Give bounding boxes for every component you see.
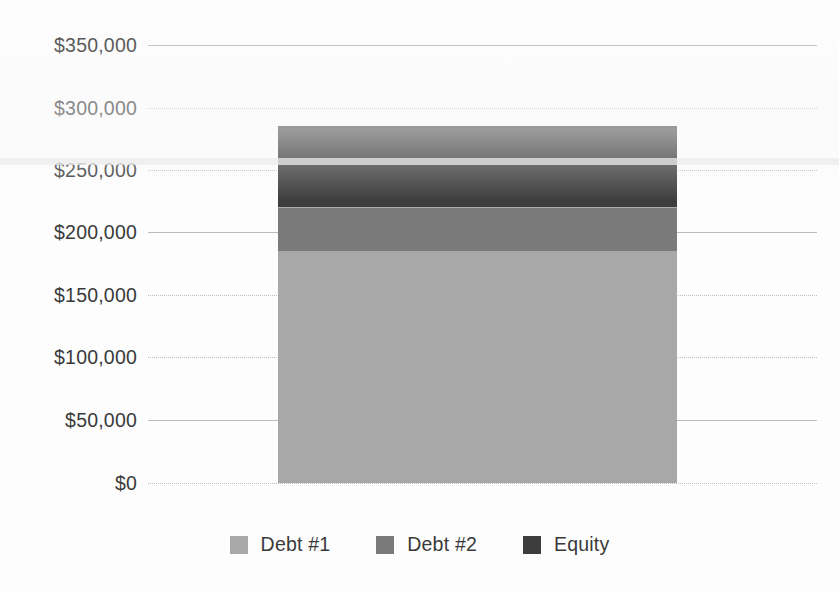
ytick-label-300000: $300,000 <box>54 97 137 120</box>
gridline-300000 <box>148 108 817 109</box>
bar-segment-debt-2[interactable] <box>278 208 677 251</box>
gridline-350000 <box>148 45 817 46</box>
legend-label-debt-2: Debt #2 <box>407 533 477 556</box>
ytick-label-0: $0 <box>115 472 137 495</box>
ytick-label-100000: $100,000 <box>54 346 137 369</box>
ytick-label-50000: $50,000 <box>65 409 137 432</box>
ytick-label-350000: $350,000 <box>54 34 137 57</box>
legend-swatch-icon-equity <box>523 536 541 554</box>
gridline-0 <box>148 483 817 484</box>
chart-container: $350,000 $300,000 $250,000 $200,000 $150… <box>0 0 839 592</box>
ytick-label-200000: $200,000 <box>54 221 137 244</box>
legend-item-debt-1[interactable]: Debt #1 <box>230 533 331 556</box>
ytick-label-150000: $150,000 <box>54 284 137 307</box>
plot-area: $350,000 $300,000 $250,000 $200,000 $150… <box>0 0 839 592</box>
legend-item-equity[interactable]: Equity <box>523 533 609 556</box>
bar-segment-equity[interactable] <box>278 126 677 208</box>
legend-swatch-icon-debt-1 <box>230 536 248 554</box>
legend-label-equity: Equity <box>554 533 609 556</box>
ytick-label-250000: $250,000 <box>54 159 137 182</box>
legend-swatch-icon-debt-2 <box>376 536 394 554</box>
legend-item-debt-2[interactable]: Debt #2 <box>376 533 477 556</box>
legend-label-debt-1: Debt #1 <box>261 533 331 556</box>
bar-segment-debt-1[interactable] <box>278 251 677 483</box>
chart-legend: Debt #1 Debt #2 Equity <box>0 533 839 556</box>
